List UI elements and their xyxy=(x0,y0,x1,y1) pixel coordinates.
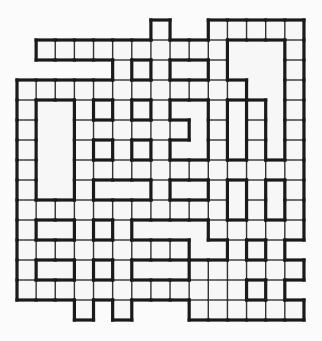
grid-cell[interactable] xyxy=(208,280,227,300)
grid-cell[interactable] xyxy=(227,240,246,260)
region-I-cell[interactable] xyxy=(266,180,285,200)
grid-cell[interactable] xyxy=(55,200,74,220)
marked-cell[interactable] xyxy=(132,140,151,160)
region-F-cell[interactable] xyxy=(94,180,113,200)
grid-cell[interactable] xyxy=(247,20,266,40)
region-A-cell[interactable] xyxy=(266,120,285,140)
region-C-cell[interactable] xyxy=(36,160,55,180)
grid-cell[interactable] xyxy=(151,100,170,120)
grid-cell[interactable] xyxy=(189,200,208,220)
region-E-cell[interactable] xyxy=(227,140,246,160)
region-D-cell[interactable] xyxy=(170,100,189,120)
grid-cell[interactable] xyxy=(17,160,36,180)
grid-cell[interactable] xyxy=(170,120,189,140)
grid-cell[interactable] xyxy=(113,80,132,100)
region-C-cell[interactable] xyxy=(36,100,55,120)
region-C-cell[interactable] xyxy=(55,180,74,200)
region-F-cell[interactable] xyxy=(113,180,132,200)
region-L-cell[interactable] xyxy=(55,260,74,280)
grid-cell[interactable] xyxy=(266,280,285,300)
grid-cell[interactable] xyxy=(170,200,189,220)
grid-cell[interactable] xyxy=(113,60,132,80)
grid-cell[interactable] xyxy=(247,180,266,200)
grid-cell[interactable] xyxy=(113,220,132,240)
grid-cell[interactable] xyxy=(94,200,113,220)
grid-cell[interactable] xyxy=(227,220,246,240)
grid-cell[interactable] xyxy=(189,300,208,320)
grid-cell[interactable] xyxy=(132,40,151,60)
grid-cell[interactable] xyxy=(266,240,285,260)
grid-cell[interactable] xyxy=(36,240,55,260)
grid-cell[interactable] xyxy=(151,80,170,100)
grid-cell[interactable] xyxy=(74,40,93,60)
grid-cell[interactable] xyxy=(17,200,36,220)
region-K-cell[interactable] xyxy=(132,220,151,240)
marked-cell[interactable] xyxy=(94,140,113,160)
grid-cell[interactable] xyxy=(285,120,304,140)
grid-cell[interactable] xyxy=(74,180,93,200)
grid-cell[interactable] xyxy=(208,200,227,220)
grid-cell[interactable] xyxy=(113,200,132,220)
region-M-cell[interactable] xyxy=(151,260,170,280)
grid-cell[interactable] xyxy=(36,280,55,300)
grid-cell[interactable] xyxy=(189,280,208,300)
grid-cell[interactable] xyxy=(285,40,304,60)
region-K-cell[interactable] xyxy=(170,220,189,240)
grid-cell[interactable] xyxy=(247,300,266,320)
region-L-cell[interactable] xyxy=(36,260,55,280)
grid-cell[interactable] xyxy=(227,80,246,100)
grid-cell[interactable] xyxy=(151,120,170,140)
grid-cell[interactable] xyxy=(227,300,246,320)
region-D-cell[interactable] xyxy=(170,140,189,160)
grid-cell[interactable] xyxy=(55,40,74,60)
grid-cell[interactable] xyxy=(247,160,266,180)
grid-cell[interactable] xyxy=(170,80,189,100)
grid-cell[interactable] xyxy=(189,160,208,180)
grid-cell[interactable] xyxy=(247,220,266,240)
grid-cell[interactable] xyxy=(113,300,132,320)
region-G-cell[interactable] xyxy=(170,180,189,200)
grid-cell[interactable] xyxy=(285,140,304,160)
region-D-cell[interactable] xyxy=(189,100,208,120)
grid-cell[interactable] xyxy=(151,280,170,300)
grid-cell[interactable] xyxy=(285,60,304,80)
region-C-cell[interactable] xyxy=(55,120,74,140)
region-A-cell[interactable] xyxy=(266,80,285,100)
grid-cell[interactable] xyxy=(151,20,170,40)
grid-cell[interactable] xyxy=(285,160,304,180)
region-H-cell[interactable] xyxy=(227,200,246,220)
grid-cell[interactable] xyxy=(74,260,93,280)
region-K-cell[interactable] xyxy=(151,220,170,240)
grid-cell[interactable] xyxy=(55,80,74,100)
grid-cell[interactable] xyxy=(74,80,93,100)
region-J-cell[interactable] xyxy=(36,220,55,240)
grid-cell[interactable] xyxy=(113,260,132,280)
grid-cell[interactable] xyxy=(94,120,113,140)
grid-cell[interactable] xyxy=(208,120,227,140)
grid-cell[interactable] xyxy=(132,80,151,100)
grid-cell[interactable] xyxy=(17,220,36,240)
grid-cell[interactable] xyxy=(208,20,227,40)
grid-cell[interactable] xyxy=(94,160,113,180)
grid-cell[interactable] xyxy=(17,140,36,160)
grid-cell[interactable] xyxy=(113,160,132,180)
grid-cell[interactable] xyxy=(74,300,93,320)
grid-cell[interactable] xyxy=(170,280,189,300)
region-A-cell[interactable] xyxy=(266,140,285,160)
grid-cell[interactable] xyxy=(151,180,170,200)
grid-cell[interactable] xyxy=(17,280,36,300)
grid-cell[interactable] xyxy=(151,200,170,220)
grid-cell[interactable] xyxy=(170,160,189,180)
grid-cell[interactable] xyxy=(247,260,266,280)
grid-cell[interactable] xyxy=(36,200,55,220)
grid-cell[interactable] xyxy=(189,260,208,280)
grid-cell[interactable] xyxy=(227,280,246,300)
region-F-cell[interactable] xyxy=(132,180,151,200)
marked-cell[interactable] xyxy=(247,240,266,260)
grid-cell[interactable] xyxy=(285,180,304,200)
grid-cell[interactable] xyxy=(55,280,74,300)
grid-cell[interactable] xyxy=(17,80,36,100)
grid-cell[interactable] xyxy=(285,20,304,40)
grid-cell[interactable] xyxy=(208,300,227,320)
region-C-cell[interactable] xyxy=(55,160,74,180)
